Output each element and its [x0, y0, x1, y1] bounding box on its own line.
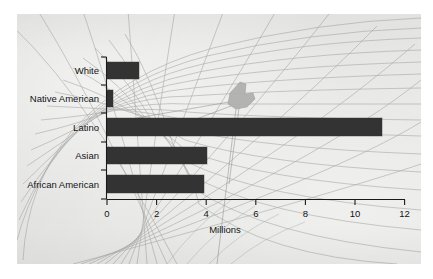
bar-african-american: [107, 175, 204, 193]
xtick-label-4: 4: [196, 208, 216, 219]
bar-asian: [107, 147, 207, 164]
plot-area: White Native American Latino Asian Afric…: [17, 14, 421, 264]
xtick-label-8: 8: [295, 208, 315, 219]
xtick-label-2: 2: [147, 208, 167, 219]
x-axis-title: Millions: [209, 224, 241, 235]
chart-panel: White Native American Latino Asian Afric…: [17, 14, 421, 264]
bar-white: [107, 62, 139, 79]
category-label-latino: Latino: [17, 122, 99, 133]
bar-latino: [107, 118, 382, 136]
xtick-label-0: 0: [97, 208, 117, 219]
xtick-label-12: 12: [395, 208, 415, 219]
xtick-label-10: 10: [345, 208, 365, 219]
category-label-native-american: Native American: [17, 93, 99, 104]
bar-native-american: [107, 90, 113, 107]
category-label-african-american: African American: [17, 179, 99, 190]
category-label-asian: Asian: [17, 150, 99, 161]
figure-canvas: White Native American Latino Asian Afric…: [0, 0, 433, 279]
xtick-label-6: 6: [246, 208, 266, 219]
category-label-white: White: [17, 65, 99, 76]
